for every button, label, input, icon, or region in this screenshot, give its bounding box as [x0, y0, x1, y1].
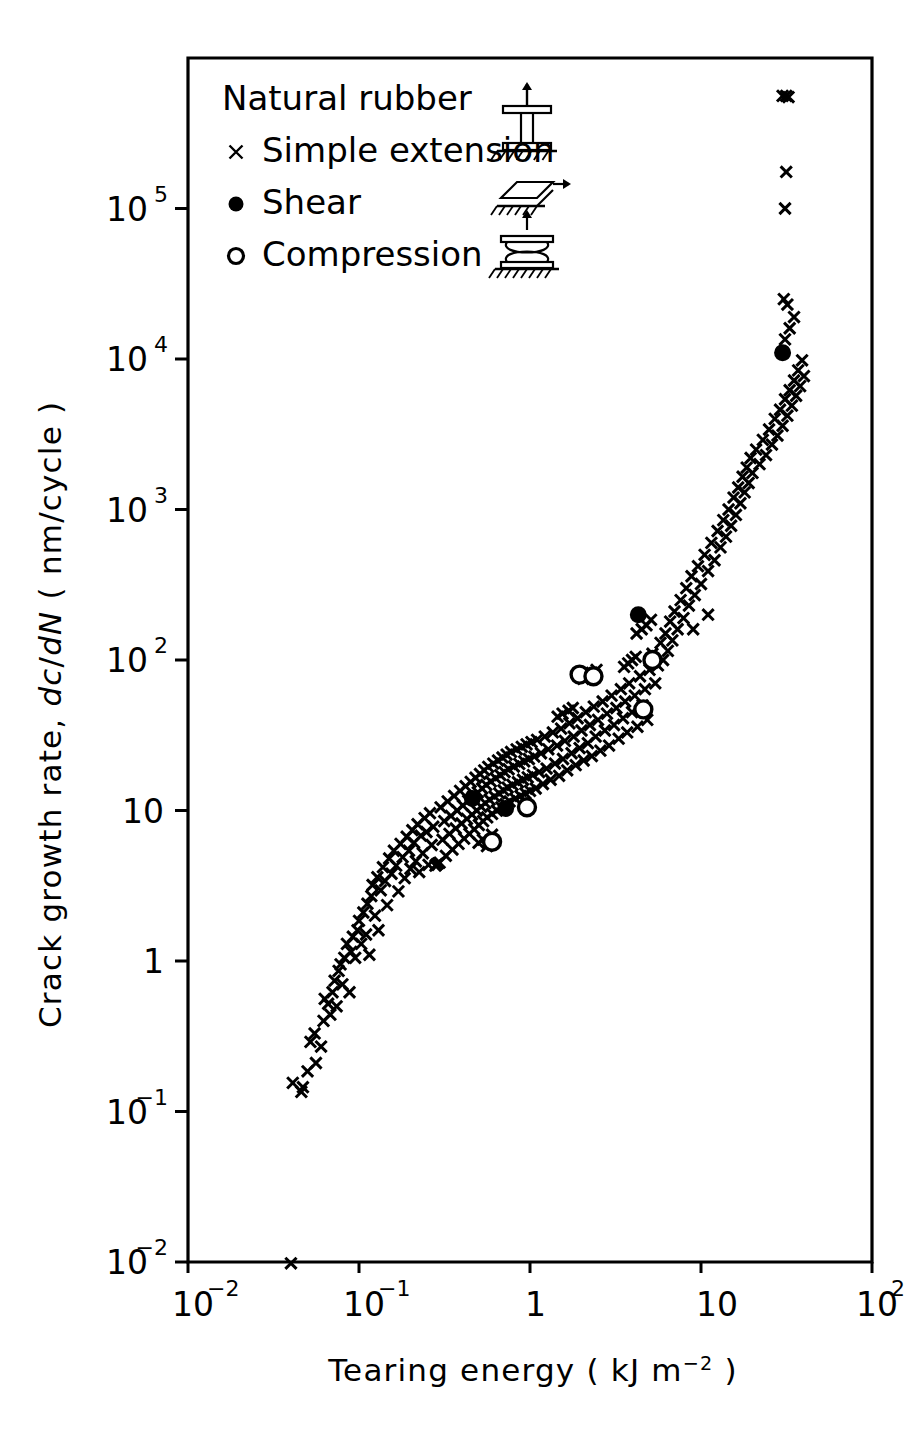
- svg-text:10: 10: [106, 491, 148, 530]
- legend-title: Natural rubber: [222, 78, 472, 118]
- svg-text:10: 10: [122, 792, 164, 831]
- svg-text:2: 2: [154, 633, 168, 658]
- svg-text:2: 2: [891, 1276, 905, 1301]
- svg-text:1: 1: [525, 1285, 546, 1324]
- y-axis-title-slash: /: [32, 656, 68, 668]
- svg-text:3: 3: [154, 483, 168, 508]
- svg-text:1: 1: [143, 942, 164, 981]
- svg-text:4: 4: [154, 332, 168, 357]
- svg-text:10: 10: [106, 641, 148, 680]
- svg-text:−1: −1: [378, 1276, 410, 1301]
- svg-text:−2: −2: [207, 1276, 239, 1301]
- x-axis-title-pre: Tearing energy ( kJ m: [328, 1352, 682, 1388]
- svg-text:−2: −2: [136, 1235, 168, 1260]
- svg-text:10: 10: [696, 1285, 738, 1324]
- x-axis-title-exponent: −2: [683, 1352, 714, 1375]
- svg-text:10: 10: [106, 190, 148, 229]
- x-axis-title: Tearing energy ( kJ m−2 ): [188, 1352, 878, 1388]
- y-axis-title-pre: Crack growth rate,: [32, 707, 68, 1028]
- svg-text:5: 5: [154, 182, 168, 207]
- svg-text:−1: −1: [136, 1085, 168, 1110]
- y-axis-title-dn: dN: [32, 611, 68, 656]
- y-axis-title: Crack growth rate, dc/dN ( nm/cycle ): [32, 408, 68, 1028]
- scatter-plot-canvas: 10−210−111010210510410310210110−110−2 Na…: [0, 0, 917, 1442]
- y-axis-title-post: ( nm/cycle ): [32, 401, 68, 611]
- svg-text:10: 10: [106, 340, 148, 379]
- legend-label-compression: Compression: [262, 234, 483, 274]
- x-axis-title-post: ): [713, 1352, 737, 1388]
- figure-container: 10−210−111010210510410310210110−110−2 Na…: [0, 0, 917, 1442]
- y-axis-title-dc: dc: [32, 667, 68, 706]
- legend-label-shear: Shear: [262, 182, 361, 222]
